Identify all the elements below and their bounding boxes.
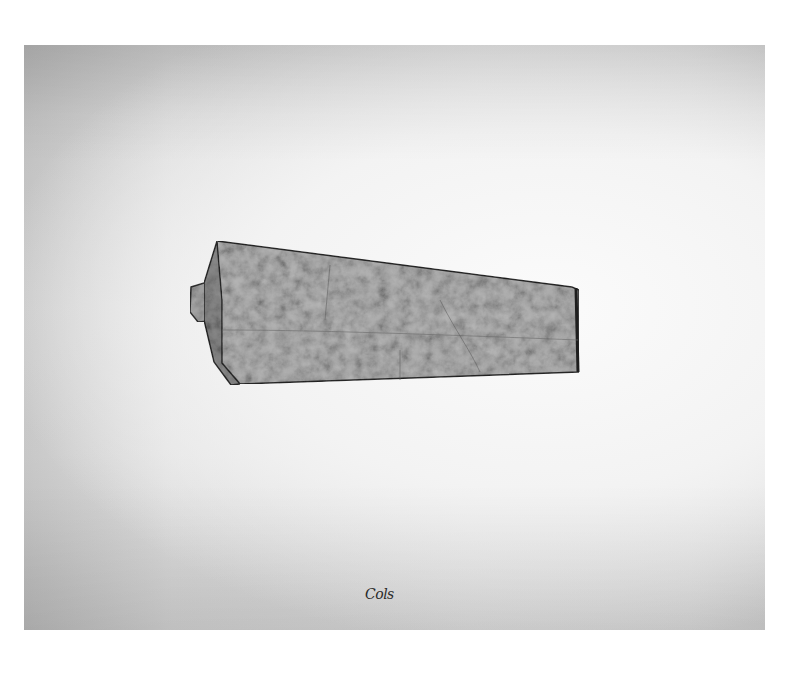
artist-signature: Cols: [365, 586, 394, 602]
object-right-edge: [576, 288, 578, 372]
object-main-face: [217, 241, 579, 384]
folded-object-artwork: [0, 0, 807, 673]
